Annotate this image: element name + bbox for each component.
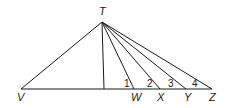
segment-tv (21, 22, 102, 89)
label-v: V (17, 91, 26, 103)
label-x: X (156, 91, 165, 103)
altitude-segment (102, 22, 104, 89)
angle-label-2: 2 (147, 78, 153, 89)
geometry-diagram: T V W X Y Z 1 2 3 4 (0, 0, 233, 108)
angle-label-4: 4 (192, 78, 198, 89)
angle-label-3: 3 (168, 78, 174, 89)
label-w: W (131, 91, 143, 103)
angle-label-1: 1 (124, 78, 130, 89)
label-z: Z (208, 91, 217, 103)
label-t: T (99, 5, 107, 17)
label-y: Y (184, 91, 192, 103)
